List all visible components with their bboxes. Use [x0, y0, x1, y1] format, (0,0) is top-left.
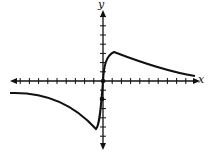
graph	[0, 0, 211, 154]
point-y-intercept	[100, 97, 105, 102]
y-axis-label: y	[98, 0, 104, 11]
point-origin	[101, 79, 106, 84]
x-axis-label: x	[198, 73, 204, 86]
